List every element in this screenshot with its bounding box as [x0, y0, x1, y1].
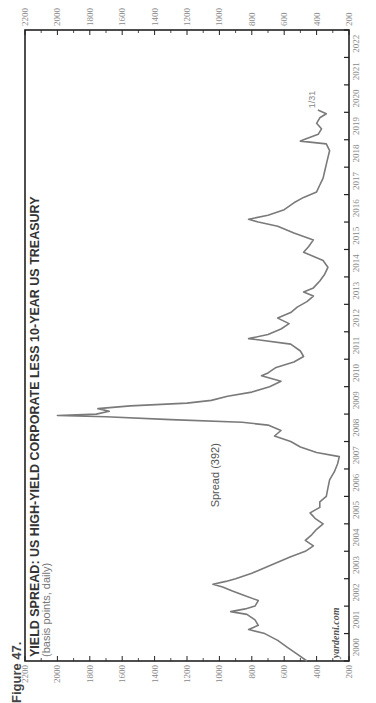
series-label: Spread (392) — [209, 443, 221, 507]
value-axis: 2200220020002000180018001600160014001400… — [20, 8, 354, 684]
svg-text:2010: 2010 — [351, 363, 361, 382]
svg-text:2013: 2013 — [351, 281, 361, 300]
time-axis: 2000200120022003200420052006200720082009… — [344, 30, 361, 661]
svg-text:2000: 2000 — [52, 665, 62, 684]
svg-text:2004: 2004 — [351, 528, 361, 547]
svg-text:2002: 2002 — [351, 583, 361, 601]
svg-text:1400: 1400 — [150, 8, 160, 27]
plot-frame — [25, 30, 349, 661]
svg-text:1200: 1200 — [182, 665, 192, 684]
svg-text:1800: 1800 — [85, 665, 95, 684]
svg-text:2001: 2001 — [351, 611, 361, 629]
svg-text:2008: 2008 — [351, 418, 361, 437]
chart-canvas: Figure 47. YIELD SPREAD: US HIGH-YIELD C… — [0, 0, 376, 703]
svg-text:2015: 2015 — [351, 226, 361, 245]
source-label: yardeni.com — [330, 607, 341, 659]
svg-text:2021: 2021 — [351, 62, 361, 80]
svg-text:2003: 2003 — [351, 555, 361, 574]
svg-text:2007: 2007 — [351, 446, 361, 465]
svg-text:1200: 1200 — [182, 8, 192, 27]
svg-text:1400: 1400 — [150, 665, 160, 684]
svg-text:2000: 2000 — [52, 8, 62, 27]
svg-text:800: 800 — [247, 665, 257, 679]
spread-line — [57, 110, 339, 661]
svg-text:2006: 2006 — [351, 473, 361, 492]
svg-text:2016: 2016 — [351, 199, 361, 218]
svg-text:2022: 2022 — [351, 35, 361, 53]
svg-text:1600: 1600 — [117, 8, 127, 27]
svg-text:2017: 2017 — [351, 171, 361, 190]
svg-text:1800: 1800 — [85, 8, 95, 27]
svg-text:2020: 2020 — [351, 89, 361, 108]
end-date-label: 1/31 — [307, 91, 317, 109]
svg-text:2012: 2012 — [351, 309, 361, 327]
svg-text:600: 600 — [279, 665, 289, 679]
svg-text:2200: 2200 — [20, 665, 30, 684]
svg-text:400: 400 — [312, 665, 322, 679]
svg-text:2000: 2000 — [351, 638, 361, 657]
svg-text:2005: 2005 — [351, 501, 361, 520]
svg-text:800: 800 — [247, 12, 257, 26]
svg-text:1600: 1600 — [117, 665, 127, 684]
svg-text:2200: 2200 — [20, 8, 30, 27]
svg-text:1000: 1000 — [214, 665, 224, 684]
svg-text:2009: 2009 — [351, 391, 361, 410]
svg-text:2018: 2018 — [351, 144, 361, 163]
svg-text:400: 400 — [312, 12, 322, 26]
svg-text:2019: 2019 — [351, 117, 361, 135]
svg-text:200: 200 — [344, 665, 354, 679]
svg-text:2011: 2011 — [351, 337, 361, 355]
svg-text:600: 600 — [279, 12, 289, 26]
svg-text:2014: 2014 — [351, 254, 361, 273]
svg-text:200: 200 — [344, 12, 354, 26]
svg-text:1000: 1000 — [214, 8, 224, 27]
chart-subtitle: (basis points, daily) — [40, 563, 52, 657]
